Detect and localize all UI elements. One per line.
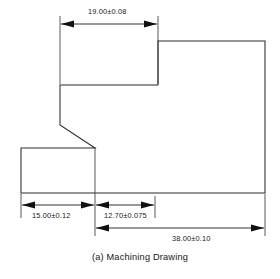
dimension-bottom-overall-group (96, 225, 264, 232)
arrow-head-bottom-overall-start (96, 225, 109, 232)
drawing-canvas (0, 0, 280, 279)
arrow-head-bottom-middle-start (96, 202, 109, 209)
arrow-head-top-left (61, 21, 74, 28)
figure-caption: (a) Machining Drawing (0, 252, 280, 262)
dimension-label-bottom-middle-width: 12.70±0.075 (104, 212, 147, 219)
dimension-bottom-middle-group (96, 202, 154, 209)
dimension-label-bottom-left-width: 15.00±0.12 (32, 212, 70, 219)
part-outline-path (21, 41, 265, 193)
dimension-bottom-left-group (22, 202, 94, 209)
arrow-head-bottom-middle-end (141, 202, 154, 209)
arrow-head-bottom-left-start (22, 202, 35, 209)
dimension-top-width-group (61, 21, 157, 28)
machining-drawing-figure: 19.00±0.08 15.00±0.12 12.70±0.075 38.00±… (0, 0, 280, 279)
dimension-label-bottom-overall-width: 38.00±0.10 (172, 235, 210, 242)
part-outline-group (21, 41, 265, 193)
arrow-head-bottom-left-end (81, 202, 94, 209)
arrow-head-bottom-overall-end (251, 225, 264, 232)
dimension-label-top-width: 19.00±0.08 (88, 8, 126, 15)
arrow-head-top-right (144, 21, 157, 28)
